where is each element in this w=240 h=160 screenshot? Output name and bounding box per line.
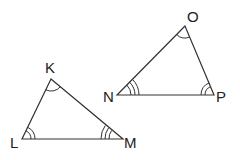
angle-l-arc-2 [26, 131, 31, 139]
angle-k-arc [46, 87, 61, 91]
vertex-label-k: K [45, 59, 55, 76]
vertex-label-n: N [103, 88, 114, 105]
angle-n-arc-1 [127, 85, 131, 95]
vertex-label-o: O [187, 8, 199, 25]
angle-p-arc-2 [205, 87, 211, 95]
similar-triangles-diagram: K L M O N P [0, 0, 240, 160]
vertex-label-p: P [216, 88, 226, 105]
angle-m-arc-1 [109, 130, 112, 139]
triangle-nop [117, 26, 214, 95]
vertex-label-l: L [10, 134, 18, 151]
vertex-label-m: M [124, 134, 137, 151]
angle-m-arc-2 [105, 128, 109, 139]
angle-o-arc [177, 35, 190, 38]
